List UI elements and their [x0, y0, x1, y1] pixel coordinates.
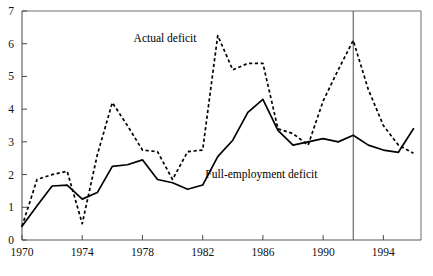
x-tick-label: 1986	[251, 246, 274, 258]
y-tick-label: 2	[8, 169, 14, 181]
y-tick-label: 7	[8, 5, 14, 17]
x-tick-label: 1974	[71, 246, 94, 258]
x-tick-label: 1990	[312, 246, 335, 258]
y-tick-label: 4	[8, 103, 14, 115]
x-tick-label: 1994	[372, 246, 395, 258]
deficit-line-chart: 01234567 1970197419781982198619901994 Ac…	[0, 0, 433, 276]
x-tick-label: 1982	[191, 246, 214, 258]
chart-canvas: 01234567 1970197419781982198619901994 Ac…	[0, 0, 433, 276]
y-tick-label: 6	[8, 38, 14, 50]
y-axis-ticks: 01234567	[8, 5, 27, 246]
series-label-full-employment-deficit: Full-employment deficit	[205, 168, 318, 181]
y-tick-label: 5	[8, 70, 14, 82]
x-tick-label: 1978	[131, 246, 154, 258]
data-series-group	[22, 36, 413, 227]
series-label-actual-deficit: Actual deficit	[134, 32, 198, 44]
y-tick-label: 1	[8, 201, 14, 213]
series-line-full-employment-deficit	[22, 99, 413, 226]
y-tick-label: 0	[8, 234, 14, 246]
x-axis-ticks: 1970197419781982198619901994	[11, 235, 396, 258]
y-tick-label: 3	[8, 136, 14, 148]
x-tick-label: 1970	[11, 246, 34, 258]
